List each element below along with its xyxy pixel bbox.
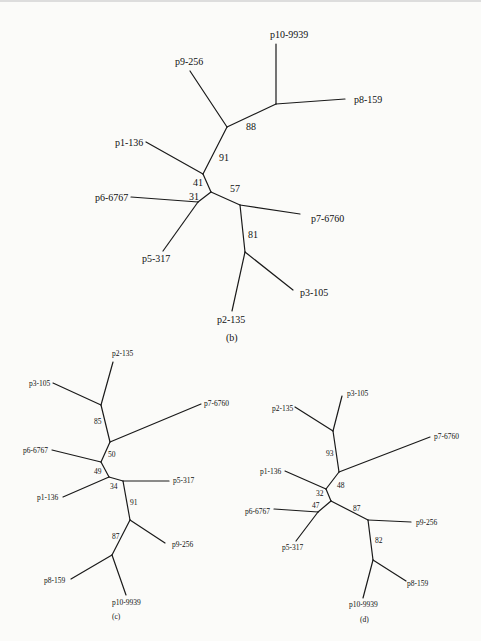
bootstrap-value: 47 <box>312 501 320 510</box>
leaf-label: p7-6760 <box>204 399 229 408</box>
bootstrap-value: 81 <box>248 229 258 240</box>
bootstrap-value: 88 <box>246 121 256 132</box>
branch-p10-9939 <box>363 560 373 598</box>
bootstrap-value: 48 <box>337 481 345 490</box>
branch-internal-47 <box>318 501 331 512</box>
branch-p5-317 <box>163 202 198 251</box>
phylogenetic-figure: p10-9939 p8-159 p9-256 p1-136 p6-6767 p5… <box>0 0 481 641</box>
leaf-label: p7-6760 <box>311 213 344 224</box>
branch-p8-159 <box>276 99 345 104</box>
leaf-label: p1-136 <box>260 467 281 476</box>
leaf-label: p5-317 <box>282 543 303 552</box>
branch-p2-135 <box>295 407 333 431</box>
leaf-label: p8-159 <box>407 579 428 588</box>
branch-p9-256 <box>130 520 165 543</box>
bootstrap-value: 32 <box>316 489 324 498</box>
leaf-label: p3-105 <box>29 379 50 388</box>
tree-panel-b: p10-9939 p8-159 p9-256 p1-136 p6-6767 p5… <box>95 29 382 344</box>
branch-internal-93 <box>333 431 339 472</box>
leaf-label: p9-256 <box>416 518 437 527</box>
leaf-label: p6-6767 <box>95 192 128 203</box>
branch-internal-41 <box>203 174 211 192</box>
branch-internal-85 <box>101 405 110 442</box>
branch-p3-105 <box>53 383 101 405</box>
leaf-label: p2-135 <box>217 314 245 325</box>
bootstrap-value: 87 <box>353 504 361 513</box>
bootstrap-value: 34 <box>110 482 118 491</box>
branch-p2-135 <box>101 362 113 405</box>
bootstrap-value: 91 <box>219 152 229 163</box>
branch-p6-6767 <box>131 197 198 202</box>
leaf-label: p10-9939 <box>349 600 378 609</box>
leaf-label: p10-9939 <box>270 29 308 40</box>
branch-p1-136 <box>146 142 203 174</box>
leaf-label: p2-135 <box>272 404 293 413</box>
branch-internal-87 <box>331 501 368 520</box>
panel-caption: (d) <box>360 615 369 624</box>
branch-internal-82 <box>368 520 373 560</box>
leaf-label: p8-159 <box>354 94 382 105</box>
leaf-label: p5-317 <box>173 476 194 485</box>
branch-internal-91 <box>123 481 130 520</box>
branch-p3-105 <box>245 252 293 290</box>
tree-panel-c: p2-135 p3-105 p7-6760 p6-6767 p5-317 p1-… <box>23 349 229 621</box>
branch-p8-159 <box>71 555 112 579</box>
leaf-label: p3-105 <box>300 287 328 298</box>
branch-internal-81 <box>240 205 245 252</box>
branch-p2-135 <box>232 252 245 311</box>
leaf-label: p6-6767 <box>245 507 270 516</box>
branch-p10-9939 <box>112 555 126 595</box>
branch-p7-6760 <box>110 404 201 442</box>
leaf-label: p9-256 <box>175 56 203 67</box>
bootstrap-value: 49 <box>94 467 102 476</box>
branch-p5-317 <box>296 512 318 541</box>
bootstrap-value: 91 <box>130 498 138 507</box>
tree-panel-d: p3-105 p2-135 p7-6760 p1-136 p6-6767 p5-… <box>245 389 459 624</box>
branch-p3-105 <box>333 396 342 431</box>
leaf-label: p3-105 <box>347 389 368 398</box>
branch-p9-256 <box>190 71 227 127</box>
leaf-label: p5-317 <box>142 253 170 264</box>
branch-p7-6760 <box>240 205 300 214</box>
leaf-label: p1-136 <box>37 493 58 502</box>
branch-p8-159 <box>373 560 406 581</box>
branch-internal-34 <box>109 477 123 481</box>
branch-internal-91 <box>203 127 227 174</box>
bootstrap-value: 85 <box>94 417 102 426</box>
bootstrap-value: 31 <box>189 191 199 202</box>
branch-p1-136 <box>285 471 326 489</box>
leaf-label: p1-136 <box>115 137 143 148</box>
panel-caption: (b) <box>226 332 238 344</box>
bootstrap-value: 50 <box>108 450 116 459</box>
leaf-label: p9-256 <box>172 540 193 549</box>
leaf-label: p2-135 <box>112 349 133 358</box>
branch-internal-49 <box>101 462 109 477</box>
panel-caption: (c) <box>112 612 121 621</box>
branch-p9-256 <box>368 520 411 522</box>
bootstrap-value: 57 <box>230 183 240 194</box>
branch-internal-32 <box>326 489 331 501</box>
branch-p6-6767 <box>52 450 101 462</box>
leaf-label: p10-9939 <box>112 598 141 607</box>
branch-internal-31 <box>198 192 211 202</box>
bootstrap-value: 82 <box>375 536 383 545</box>
bootstrap-value: 87 <box>112 532 120 541</box>
leaf-label: p7-6760 <box>434 432 459 441</box>
leaf-label: p8-159 <box>44 576 65 585</box>
branch-p1-136 <box>63 477 109 497</box>
branch-p7-6760 <box>339 437 430 472</box>
bootstrap-value: 93 <box>326 449 334 458</box>
bootstrap-value: 41 <box>193 177 203 188</box>
leaf-label: p6-6767 <box>23 446 48 455</box>
